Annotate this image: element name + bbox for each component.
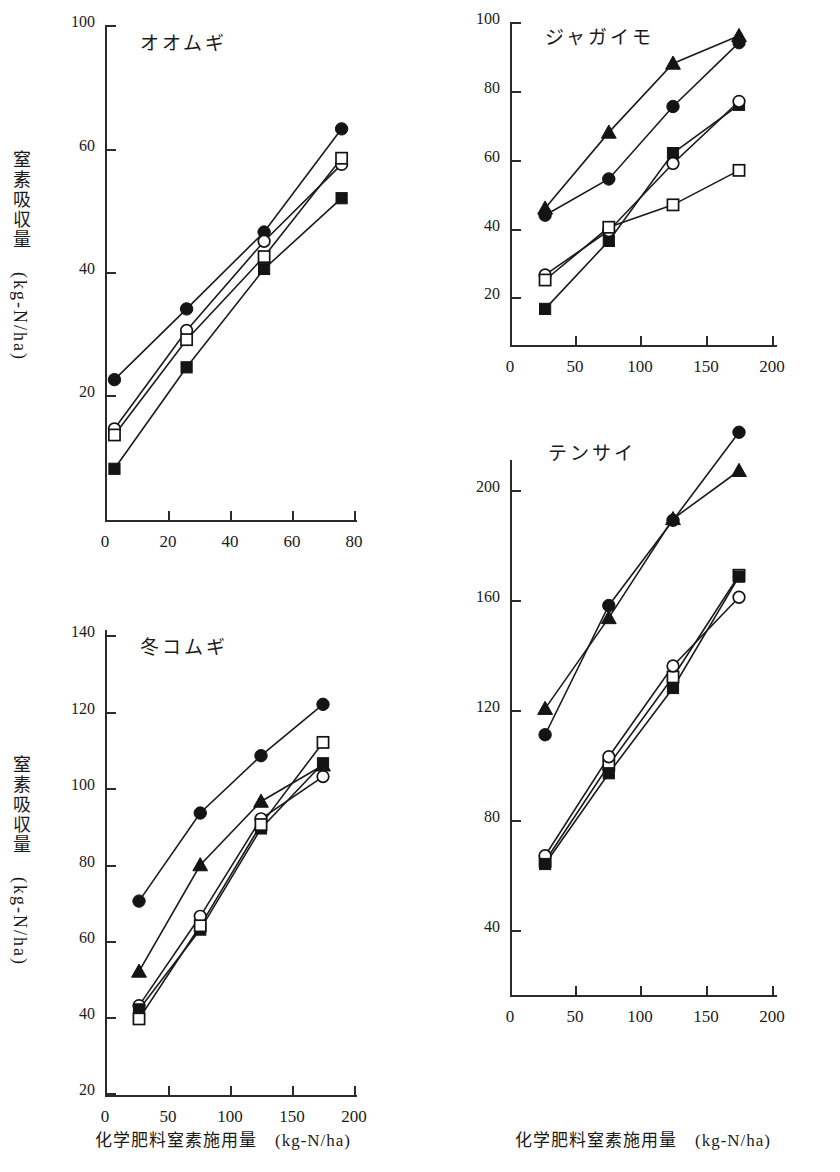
series-line-filled-circle	[545, 432, 739, 735]
data-point-marker	[733, 96, 745, 108]
series-layer	[0, 600, 420, 1172]
data-point-marker	[133, 895, 145, 907]
series-line-open-circle	[139, 777, 323, 1006]
data-point-marker	[317, 698, 329, 710]
data-point-marker	[667, 100, 679, 112]
series-layer	[0, 0, 420, 580]
data-point-marker	[317, 737, 328, 748]
x-axis-caption-left: 化学肥料窒素施用量 (kg-N/ha)	[95, 1126, 351, 1151]
data-point-marker	[667, 199, 678, 210]
data-point-marker	[667, 158, 679, 170]
series-layer	[420, 0, 840, 400]
data-point-marker	[733, 571, 744, 582]
data-point-marker	[335, 123, 347, 135]
chart-panel-potato: 20406080100050100150200ジャガイモ	[420, 0, 840, 400]
data-point-marker	[667, 660, 679, 672]
data-point-marker	[336, 153, 347, 164]
data-point-marker	[317, 758, 328, 769]
series-line-open-square	[545, 170, 739, 280]
chart-panel-sugar-beet: 4080120160200050100150200テンサイ	[420, 400, 840, 1172]
data-point-marker	[317, 771, 329, 783]
data-point-marker	[181, 334, 192, 345]
series-line-filled-circle	[139, 704, 323, 901]
data-point-marker	[732, 463, 747, 476]
series-line-open-square	[114, 158, 341, 435]
series-line-filled-square	[114, 198, 341, 469]
data-point-marker	[603, 768, 614, 779]
data-point-marker	[667, 682, 678, 693]
data-point-marker	[132, 964, 147, 977]
series-line-open-circle	[545, 101, 739, 275]
data-point-marker	[733, 37, 745, 49]
data-point-marker	[259, 251, 270, 262]
data-point-marker	[194, 807, 206, 819]
series-line-filled-square	[545, 105, 739, 309]
data-point-marker	[254, 794, 269, 807]
data-point-marker	[539, 729, 551, 741]
data-point-marker	[109, 463, 120, 474]
data-point-marker	[733, 165, 744, 176]
chart-panel-barley: 204060100020406080オオムギ	[0, 0, 420, 580]
series-line-open-square	[545, 575, 739, 861]
x-axis-caption-right: 化学肥料窒素施用量 (kg-N/ha)	[515, 1126, 771, 1151]
data-point-marker	[258, 235, 270, 247]
data-point-marker	[667, 671, 678, 682]
data-point-marker	[181, 362, 192, 373]
data-point-marker	[108, 373, 120, 385]
data-point-marker	[259, 263, 270, 274]
data-point-marker	[603, 222, 614, 233]
series-layer	[420, 400, 840, 1172]
data-point-marker	[603, 751, 615, 763]
data-point-marker	[540, 858, 551, 869]
data-point-marker	[733, 591, 745, 603]
data-point-marker	[255, 750, 267, 762]
chart-panel-winter-wheat: 20406080100120140050100150200冬コムギ	[0, 600, 420, 1172]
data-point-marker	[603, 173, 615, 185]
data-point-marker	[336, 193, 347, 204]
series-line-filled-triangle	[545, 36, 739, 209]
data-point-marker	[538, 701, 553, 714]
data-point-marker	[133, 1013, 144, 1024]
series-line-filled-triangle	[545, 471, 739, 709]
data-point-marker	[666, 56, 681, 69]
data-point-marker	[195, 920, 206, 931]
series-line-filled-circle	[114, 129, 341, 380]
series-line-filled-square	[139, 763, 323, 1009]
data-point-marker	[109, 429, 120, 440]
data-point-marker	[539, 209, 551, 221]
data-point-marker	[180, 303, 192, 315]
data-point-marker	[255, 819, 266, 830]
data-point-marker	[540, 303, 551, 314]
data-point-marker	[733, 426, 745, 438]
data-point-marker	[540, 274, 551, 285]
